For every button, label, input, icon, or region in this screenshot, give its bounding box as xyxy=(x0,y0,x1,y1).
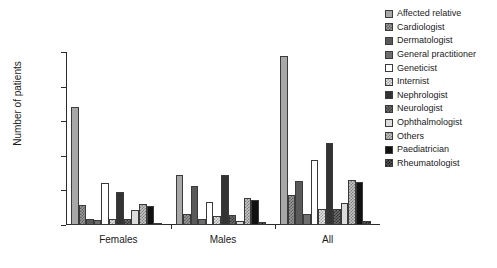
bar xyxy=(183,214,191,225)
bar xyxy=(213,216,221,225)
y-axis-tick xyxy=(61,52,66,53)
bar xyxy=(295,181,303,225)
bar xyxy=(333,209,341,225)
legend-item: General practitioner xyxy=(385,48,495,62)
legend-label: Affected relative xyxy=(397,9,461,18)
bar xyxy=(251,200,259,225)
legend-label: General practitioner xyxy=(397,50,476,59)
x-axis-tick xyxy=(171,225,172,229)
legend-item: Paediatrician xyxy=(385,143,495,157)
legend-item: Nephrologist xyxy=(385,89,495,103)
bar xyxy=(94,220,102,225)
bar xyxy=(86,219,94,225)
legend-swatch-icon xyxy=(385,37,393,45)
legend-item: Cardiologist xyxy=(385,21,495,35)
bar xyxy=(363,221,371,225)
bar xyxy=(176,175,184,225)
legend-item: Affected relative xyxy=(385,7,495,21)
legend-swatch-icon xyxy=(385,132,393,140)
bar xyxy=(318,209,326,225)
legend-item: Ophthalmologist xyxy=(385,116,495,130)
legend-item: Internist xyxy=(385,75,495,89)
legend-label: Cardiologist xyxy=(397,23,445,32)
y-axis-tick xyxy=(61,190,66,191)
bar xyxy=(147,206,155,225)
legend-label: Paediatrician xyxy=(397,145,449,154)
legend-item: Dermatologist xyxy=(385,34,495,48)
legend-item: Geneticist xyxy=(385,61,495,75)
bar xyxy=(356,182,364,225)
bar xyxy=(79,205,87,225)
bar xyxy=(139,204,147,225)
bar xyxy=(221,175,229,225)
bar xyxy=(154,223,162,225)
x-axis-tick xyxy=(275,225,276,229)
legend-label: Others xyxy=(397,132,424,141)
x-axis-group-label-males: Males xyxy=(183,234,263,245)
legend-item: Rheumatologist xyxy=(385,157,495,171)
bar xyxy=(244,198,252,225)
x-axis-group-label-females: Females xyxy=(78,234,158,245)
bar xyxy=(280,56,288,225)
legend-swatch-icon xyxy=(385,10,393,18)
legend-label: Internist xyxy=(397,77,429,86)
bars-layer xyxy=(66,52,380,225)
bar xyxy=(206,202,214,225)
legend-swatch-icon xyxy=(385,146,393,154)
legend-label: Nephrologist xyxy=(397,91,448,100)
bar xyxy=(236,221,244,225)
legend-label: Geneticist xyxy=(397,64,437,73)
y-axis-tick xyxy=(61,225,66,226)
y-axis-tick xyxy=(61,87,66,88)
bar xyxy=(71,107,79,226)
bar xyxy=(198,219,206,225)
y-tick-label-group: 04080120160200 xyxy=(0,0,58,268)
legend-label: Dermatologist xyxy=(397,36,453,45)
bar xyxy=(116,192,124,225)
legend-item: Others xyxy=(385,129,495,143)
bar xyxy=(101,183,109,225)
legend-item: Neurologist xyxy=(385,102,495,116)
plot-area xyxy=(66,52,380,225)
legend-swatch-icon xyxy=(385,159,393,167)
legend-label: Rheumatologist xyxy=(397,159,460,168)
x-axis-group-label-all: All xyxy=(288,234,368,245)
legend-swatch-icon xyxy=(385,119,393,127)
legend-swatch-icon xyxy=(385,78,393,86)
bar xyxy=(288,195,296,225)
bar xyxy=(341,203,349,225)
bar xyxy=(259,222,267,225)
legend-label: Neurologist xyxy=(397,104,443,113)
legend-swatch-icon xyxy=(385,91,393,99)
legend: Affected relativeCardiologistDermatologi… xyxy=(385,7,495,170)
legend-swatch-icon xyxy=(385,105,393,113)
legend-swatch-icon xyxy=(385,51,393,59)
bar xyxy=(229,215,237,225)
y-axis-title: Number of patients xyxy=(12,29,23,179)
bar xyxy=(303,214,311,225)
y-axis-tick xyxy=(61,121,66,122)
legend-swatch-icon xyxy=(385,64,393,72)
bar xyxy=(326,143,334,225)
bar xyxy=(191,186,199,225)
legend-swatch-icon xyxy=(385,23,393,31)
bar xyxy=(124,219,132,225)
bar xyxy=(131,210,139,225)
bar xyxy=(109,219,117,225)
y-axis-tick xyxy=(61,156,66,157)
legend-label: Ophthalmologist xyxy=(397,118,462,127)
bar xyxy=(311,160,319,225)
bar-chart-figure: 04080120160200 Number of patients Female… xyxy=(0,0,497,268)
bar xyxy=(348,180,356,225)
